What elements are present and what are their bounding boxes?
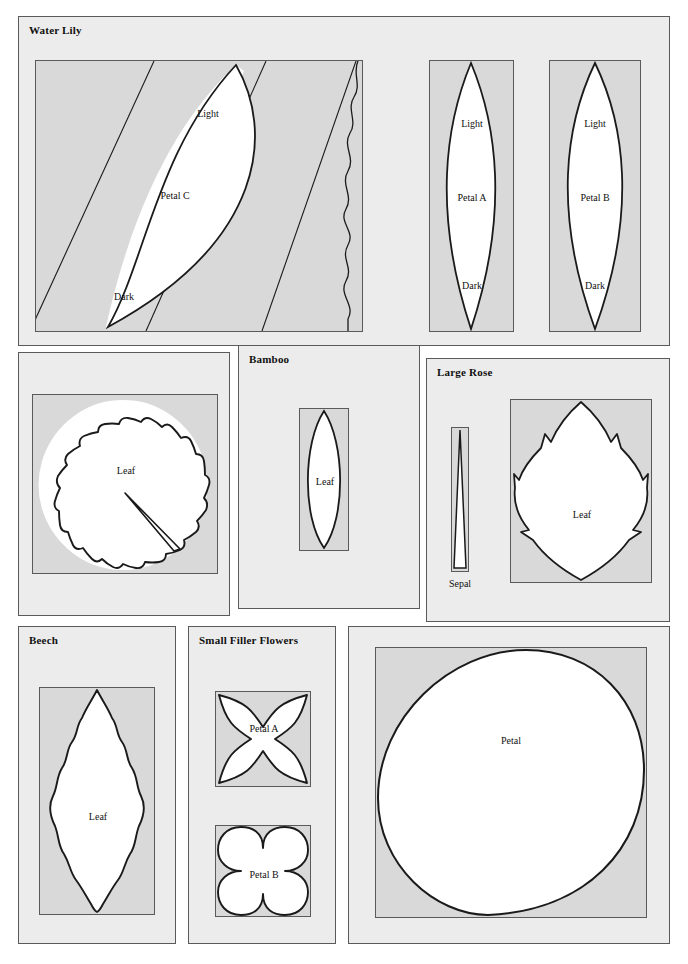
large-petal-drawing — [376, 648, 646, 917]
group-panel-large-petal: Petal — [348, 626, 670, 944]
group-panel-small-filler-flowers: Small Filler Flowers Petal A Petal B — [188, 626, 336, 944]
pattern-tile-water-lily-petal-a: Light Petal A Dark — [429, 60, 514, 332]
group-title-water-lily: Water Lily — [29, 24, 82, 36]
bamboo-leaf-outline — [308, 411, 340, 548]
petal-a-drawing — [430, 61, 513, 331]
pattern-sheet: Water Lily Light Petal C Dark — [0, 0, 688, 964]
petal-b-drawing — [550, 61, 640, 331]
beech-leaf-outline — [50, 690, 144, 912]
petal-a-outline — [447, 63, 496, 329]
bamboo-leaf-drawing — [300, 409, 348, 550]
rose-sepal-outline — [454, 430, 466, 568]
group-panel-large-rose: Large Rose Sepal Leaf — [426, 358, 670, 622]
rose-leaf-outline — [514, 402, 648, 580]
group-title-beech: Beech — [29, 634, 58, 646]
filler-petal-b-drawing — [216, 826, 310, 916]
group-title-bamboo: Bamboo — [249, 353, 289, 365]
pattern-tile-filler-petal-a: Petal A — [215, 691, 311, 787]
beech-leaf-drawing — [40, 688, 154, 914]
large-petal-outline — [378, 650, 644, 915]
pattern-tile-bamboo-leaf: Leaf — [299, 408, 349, 551]
filler-petal-a-outline — [219, 695, 307, 783]
rose-leaf-drawing — [511, 400, 651, 582]
petal-b-outline — [568, 63, 623, 329]
group-panel-water-lily-leaf: Leaf — [18, 352, 230, 616]
group-panel-beech: Beech Leaf — [18, 626, 176, 944]
pattern-tile-beech-leaf: Leaf — [39, 687, 155, 915]
petal-c-drawing — [36, 61, 362, 331]
pattern-tile-rose-sepal — [451, 427, 469, 572]
pattern-tile-water-lily-petal-b: Light Petal B Dark — [549, 60, 641, 332]
filler-petal-b-outline — [218, 827, 308, 915]
pattern-tile-large-petal: Petal — [375, 647, 647, 918]
pattern-tile-filler-petal-b: Petal B — [215, 825, 311, 917]
group-title-small-filler-flowers: Small Filler Flowers — [199, 634, 298, 646]
rose-sepal-label: Sepal — [449, 578, 471, 589]
group-panel-water-lily: Water Lily Light Petal C Dark — [18, 16, 670, 346]
pattern-tile-water-lily-leaf: Leaf — [32, 394, 218, 574]
pattern-tile-rose-leaf: Leaf — [510, 399, 652, 583]
filler-petal-a-drawing — [216, 692, 310, 786]
water-lily-leaf-drawing — [33, 395, 217, 573]
petal-c-outline — [108, 65, 255, 327]
group-title-large-rose: Large Rose — [437, 366, 492, 378]
pattern-tile-water-lily-petal-c: Light Petal C Dark — [35, 60, 363, 332]
group-panel-bamboo: Bamboo Leaf — [238, 345, 420, 609]
wavy-edge-line — [344, 61, 358, 331]
rose-sepal-drawing — [452, 428, 468, 571]
